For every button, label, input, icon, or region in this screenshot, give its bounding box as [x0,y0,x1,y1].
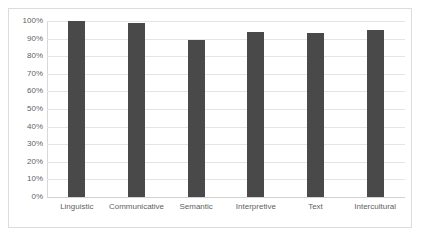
gridline [47,197,405,198]
y-axis-tick-label: 100% [9,17,43,25]
bar-slot [226,21,286,197]
y-axis-tick-label: 10% [9,175,43,183]
chart-frame: 100%90%80%70%60%50%40%30%20%10%0% Lingui… [8,8,412,228]
y-axis-tick-label: 40% [9,123,43,131]
bar[interactable] [307,33,324,197]
bar-slot [345,21,405,197]
y-axis-tick-label: 20% [9,158,43,166]
bar-slot [286,21,346,197]
x-axis-tick-label: Interpretive [226,203,286,212]
y-axis-tick-label: 80% [9,52,43,60]
bar-slot [107,21,167,197]
bar[interactable] [188,40,205,197]
x-axis-tick-labels: LinguisticCommunicativeSemanticInterpret… [47,201,405,223]
y-axis-tick-label: 90% [9,35,43,43]
y-axis-tick-label: 30% [9,140,43,148]
bar[interactable] [247,32,264,197]
x-axis-tick-label: Text [286,203,346,212]
plot-area [47,21,405,197]
y-axis-tick-labels: 100%90%80%70%60%50%40%30%20%10%0% [9,21,43,197]
y-axis-tick-label: 70% [9,70,43,78]
x-axis-tick-label: Semantic [166,203,226,212]
x-axis-tick-label: Communicative [107,203,167,212]
y-axis-tick-label: 50% [9,105,43,113]
bar[interactable] [68,21,85,197]
bar-slot [47,21,107,197]
x-axis-tick-label: Intercultural [345,203,405,212]
bar[interactable] [367,30,384,197]
y-axis-tick-label: 60% [9,87,43,95]
bar-slot [166,21,226,197]
bar[interactable] [128,23,145,197]
y-axis-tick-label: 0% [9,193,43,201]
x-axis-tick-label: Linguistic [47,203,107,212]
